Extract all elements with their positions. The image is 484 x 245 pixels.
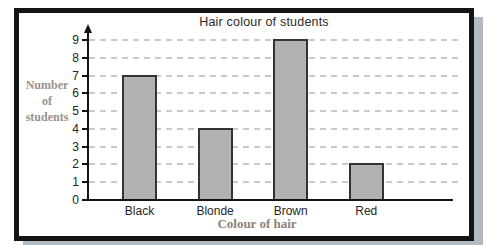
bar-black [122,75,157,201]
y-tick-label-3: 3 [39,140,79,154]
y-tick-label-7: 7 [39,69,79,83]
bar-brown [273,39,308,201]
y-tick-label-6: 6 [39,86,79,100]
y-axis-arrow-icon [84,24,92,33]
y-tick-label-2: 2 [39,157,79,171]
y-axis-line [87,31,89,201]
y-tick-label-8: 8 [39,51,79,65]
x-axis-line [87,199,453,201]
y-tick-label-9: 9 [39,33,79,47]
bar-blonde [198,128,233,201]
y-tick-label-0: 0 [39,193,79,207]
chart-frame: Hair colour of students Number of studen… [14,8,474,241]
y-tick-label-1: 1 [39,175,79,189]
plot-area: 0123456789BlackBlondeBrownRed [19,13,469,236]
chart-canvas: Hair colour of students Number of studen… [0,0,484,245]
bar-red [349,163,384,201]
x-axis-title: Colour of hair [87,216,427,232]
y-tick-label-4: 4 [39,122,79,136]
y-tick-label-5: 5 [39,104,79,118]
